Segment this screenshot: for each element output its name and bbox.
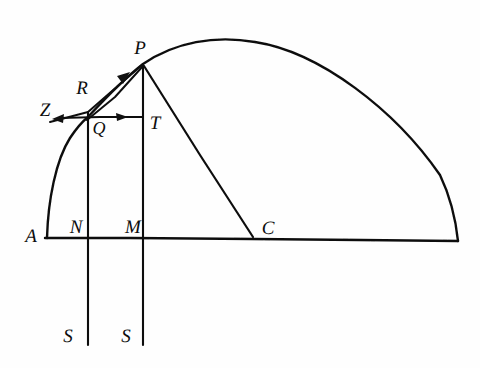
label-Z: Z	[40, 101, 51, 120]
label-C: C	[262, 219, 275, 238]
arrow-toward-T	[116, 113, 128, 121]
main-arc-APB	[47, 39, 458, 241]
label-A: A	[25, 227, 37, 246]
label-N: N	[70, 218, 83, 237]
baseline-AB	[45, 238, 458, 241]
figure-root: PRZQTANMCSS	[0, 0, 480, 368]
label-T: T	[150, 114, 161, 133]
diagram-canvas	[0, 0, 480, 368]
label-P: P	[134, 39, 146, 58]
label-S-left: S	[63, 327, 73, 346]
secant-QP	[87, 66, 143, 120]
label-Q: Q	[93, 119, 106, 137]
label-M: M	[125, 218, 141, 237]
radius-PC	[144, 66, 253, 237]
label-S-right: S	[121, 327, 131, 346]
label-R: R	[76, 79, 88, 98]
